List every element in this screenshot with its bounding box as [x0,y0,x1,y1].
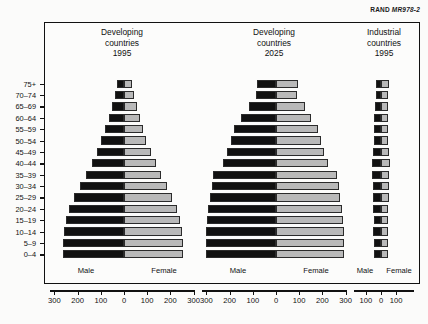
bar-row [350,125,418,133]
bar-male [63,250,124,258]
bar-row [350,205,418,213]
x-tick [124,290,125,295]
bar-row [46,114,198,122]
bar-row [350,216,418,224]
x-tick [381,290,382,295]
x-tick-label: 100 [246,296,259,305]
bar-row [46,171,198,179]
legend-female: Female [386,266,411,275]
bar-row [46,193,198,201]
bar-male [374,250,381,258]
bar-male [256,91,276,99]
bar-female [381,91,388,99]
panel-title-line: 1995 [350,48,418,59]
bar-female [276,125,318,133]
bar-female [276,239,344,247]
bar-row [198,171,350,179]
bar-row [46,102,198,110]
x-tick [194,290,195,295]
x-tick-label: 0 [274,296,278,305]
bar-row [46,91,198,99]
bar-male [69,205,124,213]
bar-female [381,239,388,247]
bar-female [276,80,298,88]
bar-male [213,171,276,179]
bar-row [198,205,350,213]
bar-male [64,227,124,235]
bar-row [350,80,418,88]
age-tick [40,254,45,255]
legend-male: Male [230,266,246,275]
legend-male: Male [78,266,94,275]
bar-male [227,148,276,156]
x-tick-label: 300 [339,296,352,305]
bar-male [63,239,124,247]
bar-female [276,114,311,122]
bar-female [276,148,324,156]
panel-title: Developingcountries2025 [198,27,350,59]
age-label: 10–14 [15,227,36,236]
bar-female [381,148,389,156]
bar-female [124,125,143,133]
bar-male [115,91,124,99]
age-label: 40–44 [15,159,36,168]
bar-row [46,239,198,247]
legend-male: Male [357,266,373,275]
bar-row [198,239,350,247]
bar-row [46,182,198,190]
bar-female [124,136,146,144]
bar-female [124,227,182,235]
bar-row [198,193,350,201]
bar-male [374,216,381,224]
bar-male [86,171,124,179]
bar-female [124,216,180,224]
bar-row [350,182,418,190]
bar-row [198,216,350,224]
age-tick [40,129,45,130]
legend-female: Female [151,266,176,275]
bar-row [198,182,350,190]
x-tick [346,290,347,295]
bar-row [198,136,350,144]
bar-row [46,80,198,88]
panel-title: Industrialcountries1995 [350,27,418,59]
age-label: 0–4 [24,250,36,259]
bar-female [276,91,297,99]
bar-row [198,148,350,156]
age-tick [40,175,45,176]
age-label: 50–54 [15,136,36,145]
bar-female [381,171,389,179]
age-tick [40,220,45,221]
bar-male [206,239,276,247]
bar-female [124,159,156,167]
x-tick-label: 100 [94,296,107,305]
age-label: 35–39 [15,170,36,179]
bar-female [276,171,337,179]
bar-male [374,136,381,144]
x-tick [276,290,277,295]
bar-male [206,250,276,258]
bar-row [198,80,350,88]
bar-row [46,227,198,235]
bar-male [112,102,124,110]
bar-row [46,216,198,224]
age-label: 5–9 [24,238,36,247]
panel-title-line: 1995 [46,48,198,59]
x-tick [322,290,323,295]
age-label: 65–69 [15,102,36,111]
bar-female [381,80,389,88]
x-tick-label: 100 [293,296,306,305]
panel-title-line: Developing [46,27,198,38]
bar-row [350,102,418,110]
bar-row [198,114,350,122]
bar-row [46,250,198,258]
bar-male [210,193,276,201]
bar-male [105,125,124,133]
bar-female [381,136,388,144]
bar-male [212,182,276,190]
bar-row [350,193,418,201]
age-axis-labels: 75+70–7465–6960–6455–5950–5445–4940–4435… [0,22,44,284]
credit-code: MR978-2 [392,6,420,13]
x-tick-label: 200 [223,296,236,305]
bar-row [46,148,198,156]
